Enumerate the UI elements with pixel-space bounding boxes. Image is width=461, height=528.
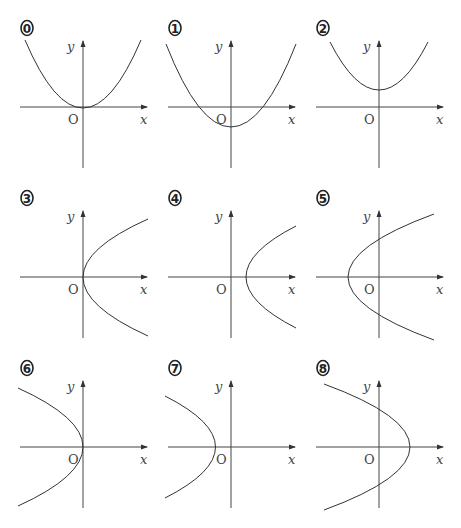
origin-label: O xyxy=(364,452,375,467)
panel-number: 5 xyxy=(319,192,327,206)
x-axis-label: x xyxy=(288,282,296,297)
graph-panel-2: 2xyO xyxy=(316,21,444,169)
y-axis-label: y xyxy=(214,39,223,54)
origin-label: O xyxy=(68,112,79,127)
x-axis-label: x xyxy=(140,112,148,127)
x-axis-label: x xyxy=(140,282,148,297)
y-axis-label: y xyxy=(214,379,223,394)
graph-panel-0: 0xyO xyxy=(20,21,148,169)
graph-panel-6: 6xyO xyxy=(18,361,148,509)
graph-panel-4: 4xyO xyxy=(168,191,296,339)
graph-panel-1: 1xyO xyxy=(166,21,296,169)
graph-panel-8: 8xyO xyxy=(316,361,444,511)
panel-number: 6 xyxy=(23,362,31,376)
x-axis-label: x xyxy=(436,452,444,467)
panel-number: 2 xyxy=(319,22,327,36)
panel-number: 4 xyxy=(171,192,179,206)
y-axis-label: y xyxy=(66,209,75,224)
origin-label: O xyxy=(364,282,375,297)
x-axis-label: x xyxy=(288,112,296,127)
y-axis-label: y xyxy=(214,209,223,224)
panel-number: 8 xyxy=(319,362,327,376)
x-axis-label: x xyxy=(436,282,444,297)
panel-number: 7 xyxy=(171,362,179,376)
panel-number: 0 xyxy=(23,22,31,36)
x-axis-label: x xyxy=(436,112,444,127)
y-axis-label: y xyxy=(66,379,75,394)
graph-grid: 0xyO1xyO2xyO3xyO4xyO5xyO6xyO7xyO8xyO xyxy=(0,0,461,528)
y-axis-label: y xyxy=(362,209,371,224)
x-axis-label: x xyxy=(288,452,296,467)
origin-label: O xyxy=(216,282,227,297)
graph-panel-3: 3xyO xyxy=(20,191,148,339)
origin-label: O xyxy=(364,112,375,127)
y-axis-label: y xyxy=(362,379,371,394)
graph-panel-5: 5xyO xyxy=(316,191,444,341)
y-axis-label: y xyxy=(66,39,75,54)
panel-number: 1 xyxy=(171,22,179,36)
origin-label: O xyxy=(68,282,79,297)
panel-number: 3 xyxy=(23,192,31,206)
y-axis-label: y xyxy=(362,39,371,54)
graph-panel-7: 7xyO xyxy=(165,361,296,509)
x-axis-label: x xyxy=(140,452,148,467)
origin-label: O xyxy=(216,452,227,467)
